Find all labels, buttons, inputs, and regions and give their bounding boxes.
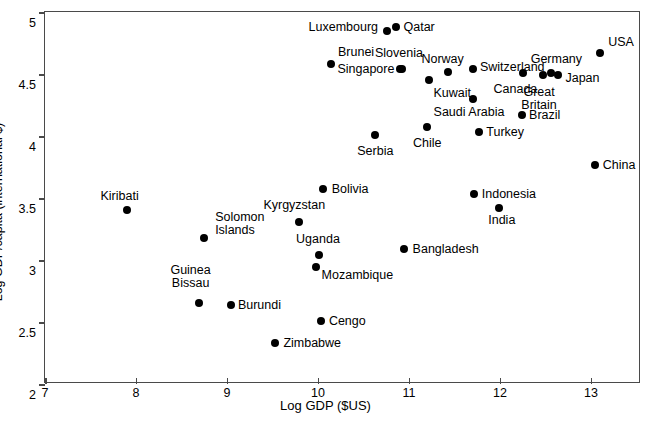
point-label-uganda: Uganda xyxy=(296,232,340,245)
point-label-saudi-arabia: Saudi Arabia xyxy=(434,106,505,119)
data-point-indonesia[interactable] xyxy=(470,190,478,198)
data-point-china[interactable] xyxy=(591,161,599,169)
data-point-mozambique[interactable] xyxy=(312,263,320,271)
data-point-guinea-bissau[interactable] xyxy=(195,299,203,307)
data-point-solomon-islands[interactable] xyxy=(200,234,208,242)
scatter-chart: Log GDP/capita (international $) Kiribat… xyxy=(0,0,651,424)
data-point-turkey[interactable] xyxy=(475,128,483,136)
point-label-kyrgyzstan: Kyrgyzstan xyxy=(263,199,325,212)
point-label-bolivia: Bolivia xyxy=(332,183,369,196)
x-tick-mark xyxy=(45,378,47,384)
data-point-bangladesh[interactable] xyxy=(400,245,408,253)
data-point-kyrgyzstan[interactable] xyxy=(295,218,303,226)
x-tick-mark xyxy=(500,378,502,384)
point-label-brunei: Brunei xyxy=(338,45,374,58)
data-point-cengo[interactable] xyxy=(317,317,325,325)
y-tick-label: 4.5 xyxy=(19,78,36,92)
x-axis-label: Log GDP ($US) xyxy=(0,398,651,413)
y-tick-label: 2.5 xyxy=(19,326,36,340)
y-tick-mark xyxy=(39,260,45,262)
x-tick-mark xyxy=(136,378,138,384)
data-point-uganda[interactable] xyxy=(315,251,323,259)
y-tick-label: 3 xyxy=(29,264,36,278)
data-point-brazil[interactable] xyxy=(518,111,526,119)
data-point-serbia[interactable] xyxy=(371,131,379,139)
y-tick-label: 3.5 xyxy=(19,202,36,216)
point-label-qatar: Qatar xyxy=(404,20,435,33)
data-point-brunei[interactable] xyxy=(327,60,335,68)
x-tick-mark xyxy=(227,378,229,384)
y-tick-label: 5 xyxy=(29,16,36,30)
data-point-kuwait[interactable] xyxy=(425,76,433,84)
y-tick-mark xyxy=(39,74,45,76)
data-point-qatar[interactable] xyxy=(392,23,400,31)
data-point-singapore[interactable] xyxy=(398,65,406,73)
point-label-singapore: Singapore xyxy=(337,63,394,76)
point-label-cengo: Cengo xyxy=(329,314,366,327)
point-label-burundi: Burundi xyxy=(238,298,281,311)
data-point-burundi[interactable] xyxy=(227,301,235,309)
data-point-kiribati[interactable] xyxy=(123,206,131,214)
point-label-kuwait: Kuwait xyxy=(434,86,472,99)
y-tick-mark xyxy=(39,12,45,14)
point-label-india: India xyxy=(488,214,515,227)
data-point-india[interactable] xyxy=(495,204,503,212)
data-point-switzerland[interactable] xyxy=(469,65,477,73)
data-point-japan[interactable] xyxy=(554,71,562,79)
x-tick-mark xyxy=(318,378,320,384)
data-point-norway[interactable] xyxy=(444,68,452,76)
data-point-zimbabwe[interactable] xyxy=(271,339,279,347)
y-tick-mark xyxy=(39,198,45,200)
data-point-bolivia[interactable] xyxy=(319,185,327,193)
point-label-usa: USA xyxy=(608,35,634,48)
point-label-norway: Norway xyxy=(421,53,463,66)
point-label-indonesia: Indonesia xyxy=(482,188,536,201)
y-axis-label: Log GDP/capita (international $) xyxy=(0,102,5,322)
point-label-turkey: Turkey xyxy=(486,126,524,139)
point-label-guinea-bissau: GuineaBissau xyxy=(170,264,210,290)
x-tick-mark xyxy=(409,378,411,384)
point-label-luxembourg: Luxembourg xyxy=(309,20,379,33)
point-label-mozambique: Mozambique xyxy=(322,268,394,281)
point-label-solomon-islands: SolomonIslands xyxy=(215,211,264,237)
point-label-zimbabwe: Zimbabwe xyxy=(283,337,341,350)
y-tick-mark xyxy=(39,136,45,138)
plot-area: KiribatiGuineaBissauSolomonIslandsBurund… xyxy=(44,11,640,383)
data-point-saudi-arabia[interactable] xyxy=(469,95,477,103)
data-point-great-britain[interactable] xyxy=(539,71,547,79)
y-tick-mark xyxy=(39,322,45,324)
data-point-usa[interactable] xyxy=(596,49,604,57)
point-label-slovenia: Slovenia xyxy=(375,46,423,59)
point-label-chile: Chile xyxy=(413,137,442,150)
point-label-bangladesh: Bangladesh xyxy=(413,242,479,255)
point-label-great-britain: GreatBritain xyxy=(521,86,556,112)
point-label-kiribati: Kiribati xyxy=(101,189,139,202)
data-point-canada[interactable] xyxy=(519,69,527,77)
data-point-chile[interactable] xyxy=(423,123,431,131)
x-tick-mark xyxy=(591,378,593,384)
point-label-japan: Japan xyxy=(565,71,599,84)
data-point-luxembourg[interactable] xyxy=(383,27,391,35)
point-label-serbia: Serbia xyxy=(357,144,393,157)
point-label-china: China xyxy=(603,158,636,171)
point-label-germany: Germany xyxy=(531,53,582,66)
y-tick-label: 4 xyxy=(29,140,36,154)
